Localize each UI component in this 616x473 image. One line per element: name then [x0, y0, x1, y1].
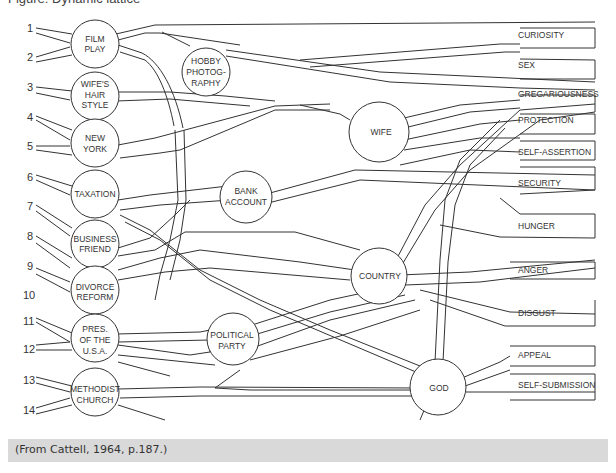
attitude-number-10: 10: [23, 289, 35, 301]
node-business-friend-line2: FRIEND: [79, 244, 111, 254]
erg-hunger: HUNGER: [518, 221, 555, 231]
erg-protection: PROTECTION: [518, 115, 574, 125]
node-taxation: TAXATION: [74, 189, 115, 199]
node-political-party-line2: PARTY: [218, 341, 246, 351]
node-bank-account-line2: ACCOUNT: [225, 197, 267, 207]
node-political-party-line1: POLITICAL: [210, 330, 254, 340]
lattice-channels: [36, 22, 595, 420]
erg-curiosity: CURIOSITY: [518, 30, 565, 40]
erg-self-submission: SELF-SUBMISSION: [518, 380, 595, 390]
node-country: COUNTRY: [359, 271, 401, 281]
node-pres-usa-line1: PRES.: [82, 324, 108, 334]
erg-appeal: APPEAL: [518, 350, 551, 360]
node-wife: WIFE: [370, 127, 392, 137]
erg-labels: CURIOSITY SEX GREGARIOUSNESS PROTECTION …: [518, 30, 599, 390]
attitude-number-2: 2: [27, 51, 33, 63]
erg-anger: ANGER: [518, 265, 548, 275]
node-god: GOD: [429, 383, 448, 393]
node-pres-usa-line3: U.S.A.: [83, 346, 108, 356]
node-pres-usa-line2: OF THE: [79, 335, 110, 345]
node-methodist-church-line2: CHURCH: [77, 395, 114, 405]
dynamic-lattice-diagram: 1 2 3 4 5 6 7 8 9 10 11 12 13 14 FILM PL…: [0, 0, 616, 473]
node-bank-account-line1: BANK: [234, 186, 257, 196]
attitude-numbers: 1 2 3 4 5 6 7 8 9 10 11 12 13 14: [23, 22, 35, 416]
attitude-number-4: 4: [27, 111, 33, 123]
node-hobby-photography-line2: PHOTOG-: [186, 67, 226, 77]
attitude-number-8: 8: [27, 230, 33, 242]
node-film-play-line2: PLAY: [84, 44, 105, 54]
figure-caption-bar: (From Cattell, 1964, p.187.): [8, 439, 608, 462]
node-new-york-line1: NEW: [85, 133, 105, 143]
erg-self-assertion: SELF-ASSERTION: [518, 147, 591, 157]
attitude-number-13: 13: [23, 374, 35, 386]
erg-security: SECURITY: [518, 178, 561, 188]
attitude-number-12: 12: [23, 343, 35, 355]
attitude-number-7: 7: [27, 200, 33, 212]
node-divorce-reform-line1: DIVORCE: [76, 282, 115, 292]
attitude-number-3: 3: [27, 81, 33, 93]
figure-caption: (From Cattell, 1964, p.187.): [15, 443, 167, 456]
node-hobby-photography-line1: HOBBY: [191, 56, 221, 66]
attitude-number-9: 9: [27, 260, 33, 272]
node-hobby-photography-line3: RAPHY: [191, 78, 221, 88]
erg-disgust: DISGUST: [518, 308, 556, 318]
attitude-number-11: 11: [23, 315, 34, 327]
node-methodist-church-line1: METHODIST: [70, 384, 120, 394]
node-wifes-hair-style-line3: STYLE: [82, 100, 109, 110]
node-divorce-reform-line2: REFORM: [77, 292, 114, 302]
attitude-number-5: 5: [27, 140, 33, 152]
node-film-play-line1: FILM: [85, 34, 104, 44]
attitude-number-14: 14: [23, 404, 35, 416]
node-new-york-line2: YORK: [83, 144, 107, 154]
attitude-number-6: 6: [27, 171, 33, 183]
erg-gregariousness: GREGARIOUSNESS: [518, 89, 599, 99]
node-business-friend-line1: BUSINESS: [74, 234, 117, 244]
node-wifes-hair-style-line1: WIFE'S: [81, 79, 110, 89]
erg-sex: SEX: [518, 60, 535, 70]
node-wifes-hair-style-line2: HAIR: [85, 90, 105, 100]
attitude-number-1: 1: [27, 22, 33, 34]
